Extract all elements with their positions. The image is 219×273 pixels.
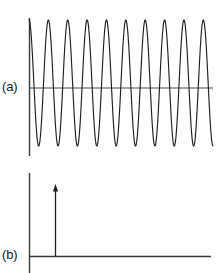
panel-a-label: (a) [2, 79, 17, 94]
panel-b-label: (b) [2, 247, 17, 262]
figure-canvas [0, 0, 219, 273]
